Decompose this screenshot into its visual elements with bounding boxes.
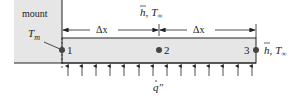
node-1-label: 1 — [67, 44, 73, 56]
node-3 — [253, 47, 259, 53]
node-2-label: 2 — [164, 44, 170, 56]
fin-diagram: mount Tm Δx Δx h,T∞ 1 2 3 h,T∞ — [0, 0, 303, 100]
heat-flux-arrows — [68, 66, 252, 76]
heat-flux-label: q″ — [153, 81, 164, 93]
node-1 — [59, 47, 65, 53]
svg-text:h,T∞: h,T∞ — [264, 44, 286, 58]
svg-text:h,T∞: h,T∞ — [140, 6, 162, 20]
dimension-label-1: Δx — [96, 24, 107, 35]
convection-label-right: h,T∞ — [264, 43, 286, 58]
convection-label-top: h,T∞ — [140, 6, 162, 20]
dimension-label-2: Δx — [193, 24, 204, 35]
mount-label: mount — [22, 8, 48, 19]
node-2 — [156, 47, 162, 53]
node-3-label: 3 — [244, 44, 250, 56]
